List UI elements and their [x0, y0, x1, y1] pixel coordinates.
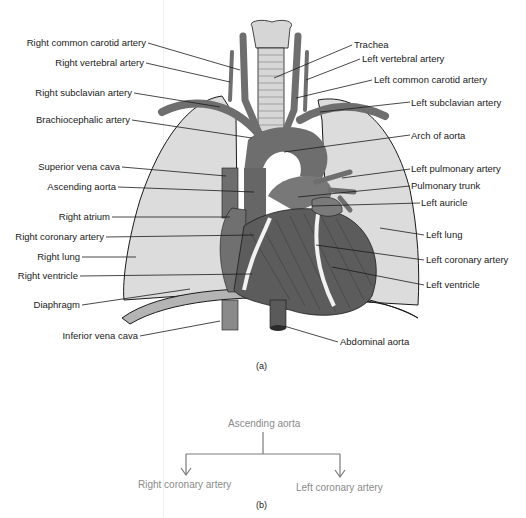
label-right-subclavian-artery: Right subclavian artery — [35, 87, 132, 98]
right-vertebral — [230, 52, 232, 100]
label-left-common-carotid-artery: Left common carotid artery — [374, 74, 487, 85]
label-inferior-vena-cava: Inferior vena cava — [62, 330, 138, 341]
label-right-lung: Right lung — [37, 251, 80, 262]
heart-ventricles — [234, 209, 376, 316]
flowchart-lines — [181, 432, 345, 477]
label-left-pulmonary-artery: Left pulmonary artery — [411, 163, 501, 174]
panel-b-label: (b) — [256, 500, 267, 510]
inferior-vena-cava — [222, 300, 238, 330]
label-right-ventricle: Right ventricle — [18, 270, 78, 281]
figure: Right common carotid artery Right verteb… — [0, 0, 526, 518]
label-right-vertebral-artery: Right vertebral artery — [55, 57, 144, 68]
panel-a-label: (a) — [256, 361, 267, 371]
label-superior-vena-cava: Superior vena cava — [38, 161, 120, 172]
flowchart-root-ascending-aorta: Ascending aorta — [228, 418, 300, 429]
label-abdominal-aorta: Abdominal aorta — [340, 336, 409, 347]
label-left-coronary-artery: Left coronary artery — [426, 254, 508, 265]
label-ascending-aorta: Ascending aorta — [47, 181, 116, 192]
label-right-coronary-artery: Right coronary artery — [15, 231, 104, 242]
abdominal-aorta — [270, 300, 286, 328]
trachea-larynx — [251, 20, 291, 48]
label-left-auricle: Left auricle — [421, 197, 467, 208]
flowchart-child-left-coronary-artery: Left coronary artery — [296, 482, 383, 493]
label-left-ventricle: Left ventricle — [426, 279, 480, 290]
right-lung — [124, 96, 238, 300]
label-left-vertebral-artery: Left vertebral artery — [362, 53, 444, 64]
label-arch-of-aorta: Arch of aorta — [411, 130, 465, 141]
label-left-lung: Left lung — [426, 229, 462, 240]
left-vertebral — [305, 52, 307, 110]
label-trachea: Trachea — [354, 39, 389, 50]
ascending-aorta — [244, 168, 266, 224]
label-diaphragm: Diaphragm — [34, 299, 80, 310]
flowchart-child-right-coronary-artery: Right coronary artery — [138, 479, 231, 490]
label-left-subclavian-artery: Left subclavian artery — [411, 97, 501, 108]
label-right-atrium: Right atrium — [59, 211, 110, 222]
label-brachiocephalic-artery: Brachiocephalic artery — [36, 114, 130, 125]
label-pulmonary-trunk: Pulmonary trunk — [411, 180, 480, 191]
label-right-common-carotid-artery: Right common carotid artery — [27, 37, 146, 48]
